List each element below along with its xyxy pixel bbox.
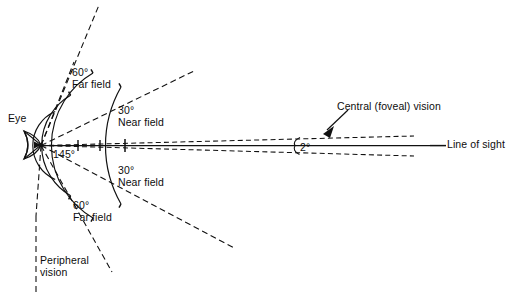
far-field-upper-angle-label: 60°: [72, 67, 88, 79]
central-vision-label: Central (foveal) vision: [337, 101, 441, 113]
peripheral-vision-label-line2: vision: [40, 267, 67, 279]
peripheral-lower-ray: [36, 146, 41, 217]
far-field-lower-angle-label: 60°: [73, 200, 89, 212]
peripheral-angle-label: 145°: [53, 149, 75, 161]
near-field-arc-tick-lower: [119, 204, 121, 208]
near-field-upper-angle-label: 30°: [118, 105, 134, 117]
near-field-upper-name-label: Near field: [118, 117, 164, 129]
peripheral-vision-label-line1: Peripheral: [40, 255, 89, 267]
central-vision-leader-line: [327, 110, 348, 130]
mid-field-arc-tick-upper: [91, 69, 93, 73]
vision-field-diagram: Eye 145° 60° Far field 30° Near field 30…: [0, 0, 523, 304]
far-field-lower-name-label: Far field: [73, 212, 112, 224]
far-field-upper-name-label: Far field: [72, 79, 111, 91]
line-of-sight-label: Line of sight: [447, 139, 505, 151]
foveal-cone-upper: [41, 136, 414, 146]
peripheral-upper-ray: [41, 62, 74, 146]
near-field-lower-name-label: Near field: [118, 177, 164, 189]
foveal-cone-lower: [41, 146, 414, 157]
near-field-arc-tick-upper: [119, 83, 121, 87]
near-field-lower-angle-label: 30°: [118, 165, 134, 177]
foveal-angle-label: 2°: [300, 142, 310, 154]
eye-label: Eye: [8, 113, 26, 125]
